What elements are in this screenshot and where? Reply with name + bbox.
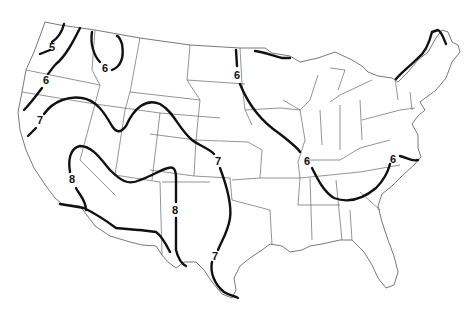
isoline-label: 7 (212, 250, 218, 262)
isoline-label: 6 (390, 153, 396, 165)
map-canvas: 5 6 6 7 7 7 8 8 6 6 6 (0, 0, 475, 315)
isoline-label: 7 (37, 114, 43, 126)
isoline-label: 7 (215, 155, 221, 167)
us-isoline-map: 5 6 6 7 7 7 8 8 6 6 6 (0, 0, 475, 315)
isoline-label: 6 (102, 62, 108, 74)
isoline-label: 8 (69, 173, 75, 185)
isoline-label: 8 (172, 204, 178, 216)
isoline-label: 5 (49, 41, 55, 53)
isoline-label: 6 (304, 155, 310, 167)
isoline-label: 6 (234, 69, 240, 81)
isoline-6-central (236, 50, 237, 66)
isoline-label: 6 (43, 74, 49, 86)
